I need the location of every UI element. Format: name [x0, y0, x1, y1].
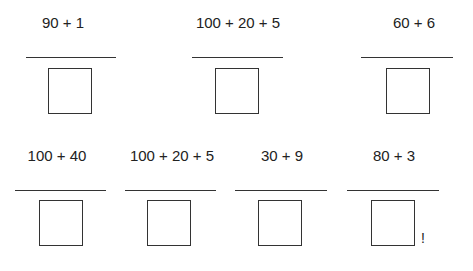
answer-box[interactable]	[386, 68, 430, 114]
answer-box[interactable]	[39, 200, 83, 246]
problem-expression: 80 + 3	[334, 147, 454, 164]
problem-expression: 30 + 9	[222, 147, 342, 164]
answer-line	[192, 57, 283, 58]
exclamation-mark: !	[421, 230, 425, 246]
answer-box[interactable]	[48, 68, 92, 114]
problem-expression: 60 + 6	[354, 14, 473, 31]
problem-expression: 100 + 20 + 5	[178, 14, 298, 31]
answer-line	[235, 190, 327, 191]
answer-box[interactable]	[371, 200, 415, 246]
answer-line	[347, 190, 439, 191]
answer-line	[15, 190, 106, 191]
answer-box[interactable]	[147, 200, 191, 246]
answer-box[interactable]	[258, 200, 302, 246]
answer-line	[361, 57, 453, 58]
problem-expression: 100 + 40	[0, 147, 117, 164]
answer-box[interactable]	[215, 68, 259, 114]
answer-line	[26, 57, 116, 58]
problem-expression: 90 + 1	[3, 14, 123, 31]
answer-line	[125, 190, 216, 191]
problem-expression: 100 + 20 + 5	[112, 147, 232, 164]
